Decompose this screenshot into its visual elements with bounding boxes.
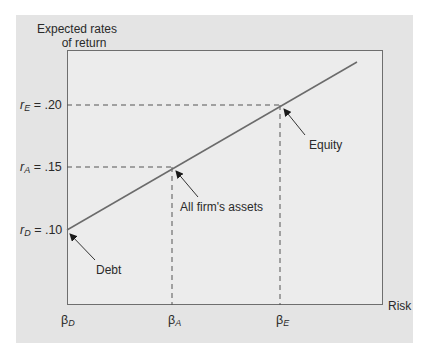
annotation-equity: Equity: [309, 138, 342, 152]
annotation-debt: Debt: [96, 263, 121, 277]
annotation-assets: All firm's assets: [180, 200, 263, 214]
y-axis-title: Expected rates of return: [27, 22, 127, 50]
plot-svg: [0, 0, 427, 357]
x-tick-betaD: βD: [61, 313, 75, 330]
y-tick-rE: rE = .20: [20, 98, 62, 115]
y-axis-title-line1: Expected rates: [27, 22, 127, 36]
debt-arrow: [70, 234, 95, 260]
x-axis-title: Risk: [388, 299, 411, 313]
y-axis-title-line2: of return: [27, 36, 127, 50]
y-tick-rD: rD = .10: [20, 223, 62, 240]
y-tick-rA: rA = .15: [20, 160, 62, 177]
equity-arrow: [284, 109, 305, 135]
x-tick-betaE: βE: [276, 313, 289, 330]
assets-arrow: [176, 171, 198, 197]
x-tick-betaA: βA: [168, 313, 181, 330]
